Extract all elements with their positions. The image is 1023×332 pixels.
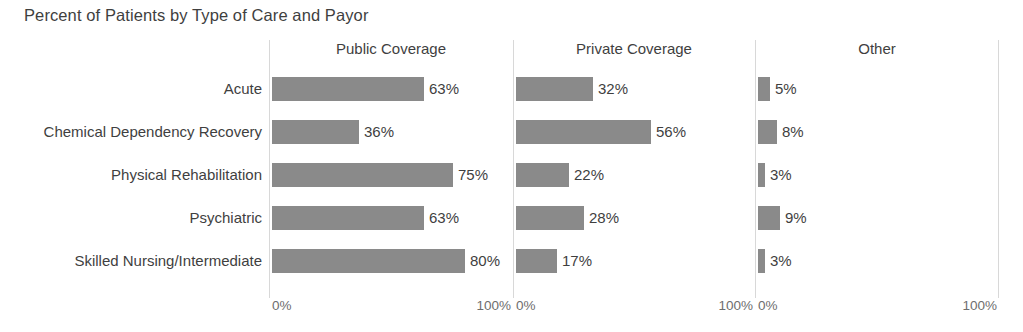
category-label-physical-rehabilitation: Physical Rehabilitation	[111, 163, 262, 187]
bar-row: 22%	[514, 163, 755, 187]
bar-private-acute	[516, 77, 593, 101]
bar-row: 63%	[270, 206, 513, 230]
bar-private-chemical-dependency-recovery	[516, 120, 651, 144]
bar-public-acute	[272, 77, 424, 101]
bar-value-private-physical-rehabilitation: 22%	[574, 163, 604, 187]
bar-row: 56%	[514, 120, 755, 144]
bar-value-private-skilled-nursing-intermediate: 17%	[562, 249, 592, 273]
bar-row: 3%	[756, 249, 999, 273]
axis-tick-min-private: 0%	[516, 296, 536, 316]
bar-row: 32%	[514, 77, 755, 101]
bar-value-other-chemical-dependency-recovery: 8%	[782, 120, 804, 144]
chart-title: Percent of Patients by Type of Care and …	[24, 6, 368, 25]
axis-tick-min-other: 0%	[758, 296, 778, 316]
bar-private-psychiatric	[516, 206, 584, 230]
bar-public-physical-rehabilitation	[272, 163, 453, 187]
bar-value-other-psychiatric: 9%	[785, 206, 807, 230]
bar-value-public-physical-rehabilitation: 75%	[458, 163, 488, 187]
bar-row: 3%	[756, 163, 999, 187]
bar-value-private-psychiatric: 28%	[589, 206, 619, 230]
bar-row: 80%	[270, 249, 513, 273]
category-label-acute: Acute	[224, 77, 262, 101]
bar-value-private-chemical-dependency-recovery: 56%	[656, 120, 686, 144]
axis-tick-min-public: 0%	[272, 296, 292, 316]
bar-public-skilled-nursing-intermediate	[272, 249, 465, 273]
bar-value-private-acute: 32%	[598, 77, 628, 101]
axis-tick-max-public: 100%	[476, 296, 511, 316]
axis-tick-max-private: 100%	[718, 296, 753, 316]
panel-header-public-coverage: Public Coverage	[269, 40, 513, 57]
chart-figure: Percent of Patients by Type of Care and …	[0, 0, 1023, 332]
bar-value-other-physical-rehabilitation: 3%	[770, 163, 792, 187]
panel-other: Other 5% 8% 3% 9%	[755, 40, 999, 332]
category-label-chemical-dependency-recovery: Chemical Dependency Recovery	[44, 120, 262, 144]
bar-group-private-coverage: 32% 56% 22% 28% 17%	[514, 68, 755, 288]
bar-value-public-chemical-dependency-recovery: 36%	[364, 120, 394, 144]
panel-header-private-coverage: Private Coverage	[513, 40, 755, 57]
bar-row: 75%	[270, 163, 513, 187]
plot-area: Acute Chemical Dependency Recovery Physi…	[0, 40, 1023, 332]
bar-other-physical-rehabilitation	[758, 163, 765, 187]
bar-row: 9%	[756, 206, 999, 230]
bar-value-public-skilled-nursing-intermediate: 80%	[470, 249, 500, 273]
axis-ticks-public-coverage: 0% 100%	[269, 296, 513, 320]
bar-public-psychiatric	[272, 206, 424, 230]
bar-other-skilled-nursing-intermediate	[758, 249, 765, 273]
bar-value-other-acute: 5%	[775, 77, 797, 101]
axis-ticks-other: 0% 100%	[755, 296, 999, 320]
panel-public-coverage: Public Coverage 63% 36% 75% 63%	[269, 40, 513, 332]
bar-other-acute	[758, 77, 770, 101]
bar-value-public-acute: 63%	[429, 77, 459, 101]
bar-row: 8%	[756, 120, 999, 144]
bar-row: 36%	[270, 120, 513, 144]
bar-other-chemical-dependency-recovery	[758, 120, 777, 144]
bar-value-other-skilled-nursing-intermediate: 3%	[770, 249, 792, 273]
bar-public-chemical-dependency-recovery	[272, 120, 359, 144]
panel-header-other: Other	[755, 40, 999, 57]
bar-group-public-coverage: 63% 36% 75% 63% 80%	[270, 68, 513, 288]
axis-tick-max-other: 100%	[962, 296, 997, 316]
panel-private-coverage: Private Coverage 32% 56% 22% 28%	[513, 40, 755, 332]
bar-row: 17%	[514, 249, 755, 273]
axis-ticks-private-coverage: 0% 100%	[513, 296, 755, 320]
bar-row: 63%	[270, 77, 513, 101]
bar-row: 5%	[756, 77, 999, 101]
category-label-psychiatric: Psychiatric	[189, 206, 262, 230]
bar-private-physical-rehabilitation	[516, 163, 569, 187]
bar-group-other: 5% 8% 3% 9% 3%	[756, 68, 999, 288]
category-label-column: Acute Chemical Dependency Recovery Physi…	[0, 40, 266, 288]
category-label-skilled-nursing-intermediate: Skilled Nursing/Intermediate	[74, 249, 262, 273]
bar-other-psychiatric	[758, 206, 780, 230]
bar-value-public-psychiatric: 63%	[429, 206, 459, 230]
bar-row: 28%	[514, 206, 755, 230]
bar-private-skilled-nursing-intermediate	[516, 249, 557, 273]
